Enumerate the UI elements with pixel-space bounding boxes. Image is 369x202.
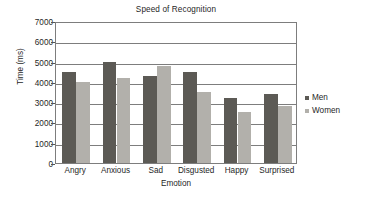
x-axis-tick-label: Anxious xyxy=(101,166,130,175)
plot-area xyxy=(55,22,297,164)
y-axis-tick-mark xyxy=(51,63,55,64)
y-axis-tick-label: 6000 xyxy=(19,38,53,47)
bar-group xyxy=(137,23,177,163)
bar-happy-men xyxy=(224,98,238,163)
bar-angry-women xyxy=(76,82,90,163)
bar-group xyxy=(258,23,298,163)
y-axis-tick-label: 1000 xyxy=(19,139,53,148)
chart-title: Speed of Recognition xyxy=(55,5,297,14)
bar-surprised-women xyxy=(278,106,292,163)
y-axis-tick-label: 5000 xyxy=(19,58,53,67)
y-axis-tick-mark xyxy=(51,42,55,43)
legend-item-men[interactable]: Men xyxy=(305,92,340,103)
x-axis-title: Emotion xyxy=(55,179,297,188)
y-axis-tick-label: 0 xyxy=(19,160,53,169)
bars-layer xyxy=(56,23,296,163)
y-axis-tick-mark xyxy=(51,144,55,145)
y-axis-tick-mark xyxy=(51,83,55,84)
bar-disgusted-women xyxy=(197,92,211,163)
y-axis-tick-label: 4000 xyxy=(19,78,53,87)
x-axis-tick-label: Surprised xyxy=(259,166,294,175)
bar-anxious-women xyxy=(117,78,131,163)
y-axis-tick-label: 7000 xyxy=(19,18,53,27)
bar-anxious-men xyxy=(103,62,117,163)
legend-label: Women xyxy=(312,106,340,115)
x-axis-tick-label: Sad xyxy=(149,166,164,175)
x-axis-tick-label: Disgusted xyxy=(178,166,214,175)
bar-group xyxy=(177,23,217,163)
y-axis-tick-mark xyxy=(51,123,55,124)
y-axis-tick-label: 3000 xyxy=(19,99,53,108)
bar-sad-men xyxy=(143,76,157,163)
y-axis-tick-label: 2000 xyxy=(19,119,53,128)
bar-disgusted-men xyxy=(183,72,197,163)
bar-group xyxy=(217,23,257,163)
legend-swatch-icon xyxy=(305,109,309,113)
y-axis-tick-mark xyxy=(51,164,55,165)
bar-group xyxy=(96,23,136,163)
bar-sad-women xyxy=(157,66,171,163)
bar-surprised-men xyxy=(264,94,278,163)
legend-swatch-icon xyxy=(305,96,309,100)
bar-chart: Speed of Recognition Time (ms) 700060005… xyxy=(0,0,369,202)
bar-angry-men xyxy=(62,72,76,163)
y-axis-tick-mark xyxy=(51,103,55,104)
chart-legend: MenWomen xyxy=(305,92,340,118)
x-axis-tick-label: Angry xyxy=(64,166,85,175)
legend-item-women[interactable]: Women xyxy=(305,105,340,116)
y-axis-tick-labels: 70006000500040003000200010000 xyxy=(15,22,53,164)
bar-group xyxy=(56,23,96,163)
x-axis-tick-labels: AngryAnxiousSadDisgustedHappySurprised xyxy=(55,166,297,180)
x-axis-tick-label: Happy xyxy=(225,166,249,175)
legend-label: Men xyxy=(312,93,328,102)
bar-happy-women xyxy=(238,112,252,163)
y-axis-tick-mark xyxy=(51,22,55,23)
